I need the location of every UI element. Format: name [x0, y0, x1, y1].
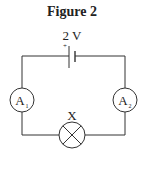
ammeter-label: A: [118, 93, 128, 108]
ammeter-a2: A 2: [113, 88, 137, 112]
lamp-label: X: [67, 108, 77, 123]
positive-mark: +: [63, 42, 67, 50]
ammeter-subscript: 1: [26, 103, 29, 109]
figure-title: Figure 2: [47, 4, 97, 19]
ammeter-label: A: [15, 93, 25, 108]
lamp-x: X: [59, 108, 85, 148]
ammeter-a1: A 1: [10, 88, 34, 112]
battery-symbol: +: [63, 42, 75, 68]
voltage-label: 2 V: [63, 28, 83, 43]
ammeter-subscript: 2: [129, 103, 132, 109]
circuit-diagram: Figure 2 2 V + A 1 A 2 X: [0, 0, 144, 172]
